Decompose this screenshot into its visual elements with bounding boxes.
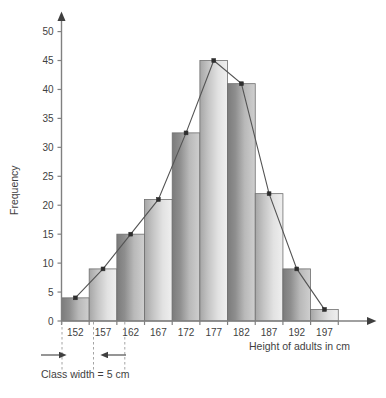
- y-tick-label: 5: [48, 287, 54, 298]
- y-tick-label: 45: [42, 55, 54, 66]
- frequency-polygon-marker: [240, 82, 244, 86]
- x-tick-label: 157: [95, 327, 112, 338]
- y-axis-ticks: 05101520253035404550: [42, 26, 61, 326]
- y-tick-label: 40: [42, 84, 54, 95]
- x-axis-ticks: 152157162167172177182187192197: [62, 321, 339, 338]
- x-tick-label: 187: [261, 327, 278, 338]
- frequency-polygon-marker: [73, 296, 77, 300]
- bar-rect: [283, 269, 311, 321]
- chart-canvas: 05101520253035404550 1521571621671721771…: [0, 0, 386, 398]
- x-tick-label: 192: [288, 327, 305, 338]
- bar-rect: [255, 194, 283, 321]
- class-width-label: Class width = 5 cm: [41, 368, 130, 380]
- histogram-figure: 05101520253035404550 1521571621671721771…: [0, 0, 386, 398]
- histogram-bar: [62, 298, 90, 321]
- frequency-polygon-marker: [295, 267, 299, 271]
- frequency-polygon-marker: [184, 131, 188, 135]
- x-tick-label: 152: [67, 327, 84, 338]
- y-tick-label: 50: [42, 26, 54, 37]
- histogram-bar: [172, 133, 200, 321]
- y-tick-label: 35: [42, 113, 54, 124]
- y-tick-label: 25: [42, 171, 54, 182]
- frequency-polygon-marker: [156, 198, 160, 202]
- y-tick-label: 0: [48, 316, 54, 327]
- plot-area: [62, 59, 339, 321]
- bar-rect: [62, 298, 90, 321]
- x-tick-label: 167: [150, 327, 167, 338]
- y-tick-label: 30: [42, 142, 54, 153]
- histogram-bar: [200, 61, 228, 321]
- y-tick-label: 15: [42, 229, 54, 240]
- class-width-annotation: Class width = 5 cm: [41, 322, 130, 380]
- histogram-bar: [283, 269, 311, 321]
- bar-rect: [228, 84, 256, 321]
- histogram-bar: [89, 269, 117, 321]
- frequency-polygon-marker: [212, 59, 216, 63]
- frequency-polygon-marker: [101, 267, 105, 271]
- x-tick-label: 197: [316, 327, 333, 338]
- y-tick-label: 20: [42, 200, 54, 211]
- y-tick-label: 10: [42, 258, 54, 269]
- frequency-polygon-marker: [129, 232, 133, 236]
- bar-rect: [89, 269, 117, 321]
- bar-rect: [145, 199, 173, 321]
- x-tick-label: 177: [205, 327, 222, 338]
- frequency-polygon-marker: [323, 308, 327, 312]
- histogram-bar: [228, 84, 256, 321]
- bar-rect: [172, 133, 200, 321]
- x-tick-label: 172: [178, 327, 195, 338]
- bar-rect: [200, 61, 228, 321]
- x-tick-label: 182: [233, 327, 250, 338]
- frequency-polygon-marker: [267, 192, 271, 196]
- x-axis-title: Height of adults in cm: [249, 340, 350, 352]
- histogram-bar: [145, 199, 173, 321]
- y-axis-title: Frequency: [8, 165, 20, 215]
- histogram-bar: [255, 194, 283, 321]
